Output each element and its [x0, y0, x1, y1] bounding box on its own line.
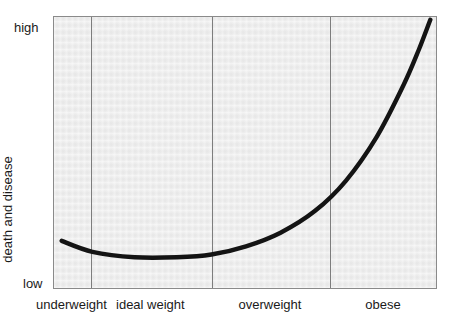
plot-area — [53, 16, 437, 289]
risk-curve — [54, 17, 437, 289]
y-axis-min-label: low — [23, 276, 43, 291]
y-axis-title-line-2: death and disease — [0, 156, 16, 262]
y-axis-max-label: high — [14, 20, 39, 35]
y-axis-title: Risk of premature death and disease — [0, 73, 20, 326]
chart-figure: high low Risk of premature death and dis… — [0, 0, 451, 326]
x-category-obese: obese — [283, 297, 451, 312]
